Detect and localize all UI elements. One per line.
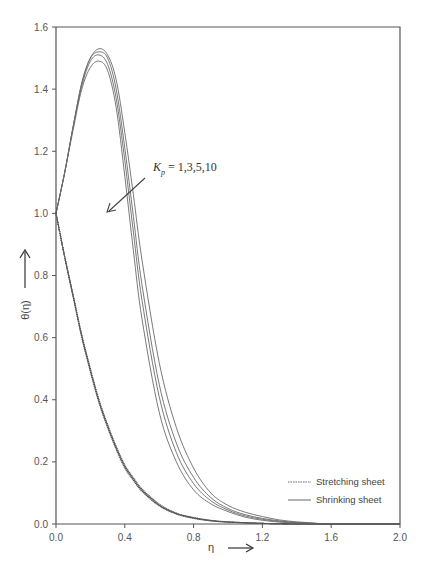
y-axis-label-group: θ(η) [19,250,31,320]
x-tick-label: 1.2 [255,532,269,543]
x-tick-label: 0.8 [187,532,201,543]
x-axis-label: η [208,541,214,553]
shrinking-sheet-curve [56,55,400,524]
axes [56,27,400,524]
legend-label-stretching: Stretching sheet [316,476,385,487]
y-tick-label: 1.6 [34,22,48,33]
x-tick-label: 0.0 [49,532,63,543]
x-axis-ticks: 0.00.40.81.21.62.0 [49,524,407,543]
annotation-values: = 1,3,5,10 [165,160,217,174]
x-tick-label: 1.6 [324,532,338,543]
x-tick-label: 0.4 [118,532,132,543]
legend-item-stretching: Stretching sheet [288,476,385,487]
y-tick-label: 0.6 [34,332,48,343]
shrinking-sheet-curve [56,52,400,524]
y-tick-label: 0.0 [34,519,48,530]
x-tick-label: 2.0 [393,532,407,543]
shrinking-sheet-curve [56,49,400,524]
plot-curves [56,49,400,524]
y-tick-label: 1.2 [34,146,48,157]
line-chart: 0.00.40.81.21.62.0 0.00.20.40.60.81.01.2… [0,0,424,569]
y-tick-label: 0.8 [34,270,48,281]
y-axis-label: θ(η) [19,300,31,320]
shrinking-sheet-curve [56,61,400,524]
svg-text:Kp = 1,3,5,10: Kp = 1,3,5,10 [152,160,217,177]
y-axis-ticks: 0.00.20.40.60.81.01.21.41.6 [34,22,56,530]
y-axis-arrow-icon [20,250,30,288]
x-axis-label-group: η [208,541,253,553]
legend: Stretching sheet Shrinking sheet [288,476,385,505]
y-tick-label: 0.4 [34,394,48,405]
legend-label-shrinking: Shrinking sheet [316,494,382,505]
plot-frame [56,27,400,524]
y-tick-label: 1.0 [34,208,48,219]
y-tick-label: 1.4 [34,84,48,95]
y-tick-label: 0.2 [34,456,48,467]
x-axis-arrow-icon [228,544,253,552]
legend-item-shrinking: Shrinking sheet [288,494,382,505]
